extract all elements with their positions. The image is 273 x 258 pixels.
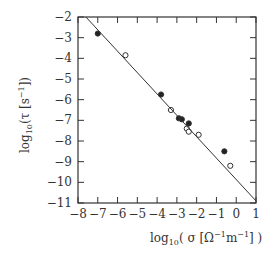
filled-data-point (222, 149, 227, 154)
y-tick-label: −3 (54, 31, 72, 45)
y-tick-label: −7 (54, 113, 72, 127)
x-tick-label: −7 (89, 207, 107, 221)
y-tick-label: −6 (54, 93, 72, 107)
y-tick-label: −5 (54, 72, 72, 86)
y-tick-label: −10 (47, 175, 72, 189)
x-tick-label: −6 (109, 207, 127, 221)
x-tick-label: 1 (252, 207, 260, 221)
x-tick-label: −5 (128, 207, 146, 221)
plot-frame (78, 17, 256, 203)
filled-data-point (186, 121, 191, 126)
y-tick-label: −11 (47, 196, 72, 210)
y-axis-label: log10(τ [s−1]) (17, 77, 34, 153)
open-data-point (123, 53, 128, 58)
y-tick-label: −8 (54, 134, 72, 148)
x-axis-label: log10( σ [Ω−1m−1] ) (150, 230, 262, 247)
y-tick-label: −4 (54, 51, 72, 65)
y-tick-label: −9 (54, 155, 72, 169)
x-tick-label: −2 (188, 207, 206, 221)
open-data-point (168, 107, 173, 112)
scatter-chart: −8−7−6−5−4−3−2−101 −2−3−4−5−6−7−8−9−10−1… (0, 0, 273, 258)
fit-line (86, 17, 256, 201)
data-series (86, 17, 256, 201)
x-tick-label: 0 (232, 207, 240, 221)
x-tick-label: −3 (168, 207, 186, 221)
y-tick-label: −2 (54, 10, 72, 24)
plot-area (78, 17, 256, 203)
x-axis-ticks: −8−7−6−5−4−3−2−101 (69, 17, 260, 221)
x-tick-label: −4 (148, 207, 166, 221)
open-data-point (228, 163, 233, 168)
x-tick-label: −1 (208, 207, 226, 221)
